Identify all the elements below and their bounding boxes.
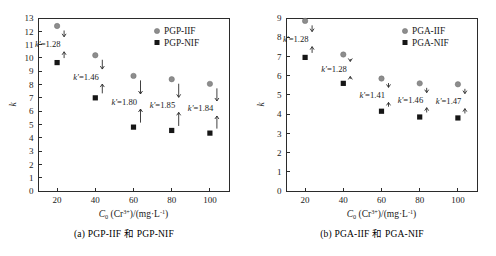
x-tick-label: 20 bbox=[53, 195, 63, 205]
chart-panel-a: 01234567891011121320406080100kC0 (Cr3+)/… bbox=[0, 0, 248, 256]
k-prime-label: k'=1.46 bbox=[398, 95, 424, 105]
data-point-square bbox=[55, 60, 60, 65]
data-point-circle bbox=[93, 53, 98, 58]
data-point-square bbox=[341, 81, 346, 86]
x-axis-title: C0 (Cr3+)/(mg·L-1) bbox=[99, 208, 168, 221]
panel-caption-a: (a) PGP-IIF 和 PGP-NIF bbox=[0, 226, 248, 240]
k-prime-annotation: k'=1.28 bbox=[35, 30, 66, 58]
y-tick-label: 4 bbox=[277, 109, 282, 119]
k-prime-annotation: k'=1.46 bbox=[73, 60, 104, 94]
legend-label: PGA-IIF bbox=[412, 26, 445, 36]
k-prime-label: k'=1.28 bbox=[283, 34, 309, 44]
k-prime-label: k'=1.46 bbox=[73, 72, 99, 82]
data-point-circle bbox=[341, 52, 346, 57]
k-prime-label: k'=1.80 bbox=[111, 97, 137, 107]
legend-circle-icon bbox=[154, 28, 159, 33]
y-tick-label: 0 bbox=[29, 186, 34, 196]
y-tick-label: 10 bbox=[25, 53, 35, 63]
k-prime-annotation: k'=1.46 bbox=[398, 88, 429, 113]
y-axis-title: k bbox=[256, 102, 266, 107]
data-point-circle bbox=[455, 82, 460, 87]
x-axis-title: C0 (Cr3+)/(mg·L-1) bbox=[347, 208, 416, 221]
y-tick-label: 13 bbox=[25, 13, 35, 23]
data-point-circle bbox=[302, 18, 307, 23]
panel-caption-b: (b) PGA-IIF 和 PGA-NIF bbox=[248, 226, 496, 240]
y-tick-label: 2 bbox=[29, 160, 34, 170]
y-tick-label: 0 bbox=[277, 186, 282, 196]
y-tick-label: 8 bbox=[29, 80, 34, 90]
y-tick-label: 7 bbox=[29, 93, 34, 103]
y-tick-label: 6 bbox=[277, 71, 282, 81]
x-tick-label: 80 bbox=[415, 195, 425, 205]
data-point-square bbox=[379, 109, 384, 114]
legend-square-icon bbox=[155, 40, 160, 45]
y-tick-label: 8 bbox=[277, 32, 282, 42]
data-point-circle bbox=[417, 81, 422, 86]
k-prime-annotation: k'=1.84 bbox=[188, 88, 219, 128]
data-point-circle bbox=[131, 73, 136, 78]
data-point-circle bbox=[54, 23, 59, 28]
data-point-square bbox=[455, 115, 460, 120]
x-tick-label: 100 bbox=[203, 195, 217, 205]
y-tick-label: 12 bbox=[25, 27, 34, 37]
y-tick-label: 11 bbox=[25, 40, 34, 50]
y-tick-label: 7 bbox=[277, 52, 282, 62]
k-prime-annotation: k'=1.47 bbox=[436, 89, 467, 114]
x-tick-label: 60 bbox=[377, 195, 387, 205]
x-tick-label: 60 bbox=[129, 195, 139, 205]
k-prime-annotation: k'=1.28 bbox=[321, 58, 352, 79]
y-tick-label: 2 bbox=[277, 148, 282, 158]
chart-panel-b: 012345678920406080100kC0 (Cr3+)/(mg·L-1)… bbox=[248, 0, 496, 256]
y-tick-label: 4 bbox=[29, 133, 34, 143]
k-prime-label: k'=1.28 bbox=[321, 64, 347, 74]
y-tick-label: 1 bbox=[277, 167, 282, 177]
data-point-square bbox=[169, 128, 174, 133]
k-prime-annotation: k'=1.41 bbox=[359, 83, 390, 107]
x-tick-label: 20 bbox=[301, 195, 311, 205]
data-point-square bbox=[303, 55, 308, 60]
legend-label: PGP-NIF bbox=[164, 38, 199, 48]
x-tick-label: 40 bbox=[339, 195, 349, 205]
x-tick-label: 40 bbox=[91, 195, 101, 205]
k-prime-label: k'=1.41 bbox=[359, 90, 385, 100]
data-point-square bbox=[93, 95, 98, 100]
k-prime-label: k'=1.28 bbox=[35, 39, 61, 49]
k-prime-annotation: k'=1.28 bbox=[283, 25, 314, 53]
data-point-square bbox=[417, 114, 422, 119]
data-point-square bbox=[131, 125, 136, 130]
y-tick-label: 9 bbox=[29, 66, 34, 76]
y-tick-label: 5 bbox=[277, 90, 282, 100]
y-tick-label: 5 bbox=[29, 120, 34, 130]
y-tick-label: 1 bbox=[29, 173, 34, 183]
data-point-circle bbox=[207, 81, 212, 86]
k-prime-label: k'=1.85 bbox=[150, 100, 176, 110]
y-axis-title: k bbox=[8, 102, 18, 107]
legend-label: PGA-NIF bbox=[412, 38, 449, 48]
data-point-circle bbox=[169, 77, 174, 82]
x-tick-label: 100 bbox=[451, 195, 465, 205]
scatter-plot-b: 012345678920406080100kC0 (Cr3+)/(mg·L-1)… bbox=[248, 0, 496, 226]
k-prime-annotation: k'=1.85 bbox=[150, 84, 181, 126]
figure-container: 01234567891011121320406080100kC0 (Cr3+)/… bbox=[0, 0, 496, 256]
y-tick-label: 9 bbox=[277, 13, 282, 23]
legend-label: PGP-IIF bbox=[164, 26, 196, 36]
data-point-square bbox=[207, 131, 212, 136]
k-prime-label: k'=1.47 bbox=[436, 96, 462, 106]
legend-square-icon bbox=[403, 40, 408, 45]
legend-circle-icon bbox=[402, 28, 407, 33]
data-point-circle bbox=[379, 76, 384, 81]
k-prime-label: k'=1.84 bbox=[188, 103, 214, 113]
scatter-plot-a: 01234567891011121320406080100kC0 (Cr3+)/… bbox=[0, 0, 248, 226]
y-tick-label: 6 bbox=[29, 106, 34, 116]
x-tick-label: 80 bbox=[167, 195, 177, 205]
k-prime-annotation: k'=1.80 bbox=[111, 80, 142, 122]
y-tick-label: 3 bbox=[277, 129, 282, 139]
y-tick-label: 3 bbox=[29, 146, 34, 156]
